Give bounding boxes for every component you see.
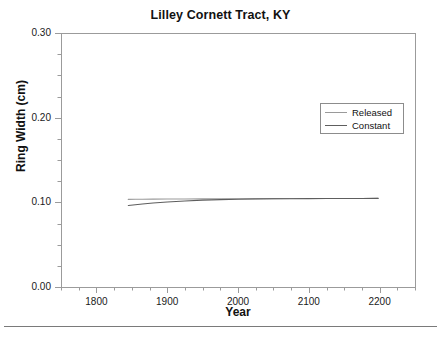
legend-item-constant: Constant bbox=[325, 119, 390, 132]
x-tick-label: 1900 bbox=[147, 296, 187, 307]
data-series-group bbox=[128, 198, 378, 205]
y-tick-label: 0.20 bbox=[17, 112, 51, 123]
legend-swatch-released bbox=[325, 112, 347, 113]
chart-figure: Lilley Cornett Tract, KY Ring Width (cm)… bbox=[0, 0, 441, 337]
tick-marks bbox=[55, 34, 416, 294]
y-tick-label: 0.30 bbox=[17, 27, 51, 38]
axis-frame bbox=[62, 34, 416, 288]
legend-swatch-constant bbox=[325, 125, 347, 126]
footer-divider bbox=[4, 326, 437, 327]
legend-label-released: Released bbox=[352, 107, 392, 118]
y-tick-label: 0.00 bbox=[17, 281, 51, 292]
y-tick-label: 0.10 bbox=[17, 196, 51, 207]
legend: Released Constant bbox=[320, 103, 404, 134]
x-tick-label: 2200 bbox=[360, 296, 400, 307]
x-tick-label: 1800 bbox=[76, 296, 116, 307]
legend-item-released: Released bbox=[325, 106, 392, 119]
legend-label-constant: Constant bbox=[352, 120, 390, 131]
x-tick-label: 2100 bbox=[289, 296, 329, 307]
plot-canvas bbox=[0, 0, 441, 337]
x-tick-label: 2000 bbox=[218, 296, 258, 307]
